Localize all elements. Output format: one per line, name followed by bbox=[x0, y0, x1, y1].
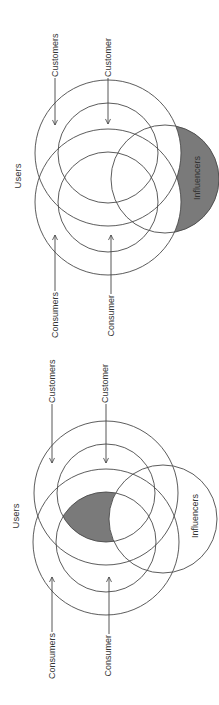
venn-diagram-figure: Users Customers Customer Consumers Consu… bbox=[0, 0, 219, 705]
label-consumers: Consumers bbox=[47, 633, 57, 680]
label-consumer: Consumer bbox=[103, 635, 113, 677]
label-customers: Customers bbox=[47, 359, 57, 403]
diagram-top: Users Customers Customer Consumers Consu… bbox=[12, 33, 219, 338]
label-customer: Customer bbox=[100, 364, 110, 403]
shaded-region-influencers-only bbox=[111, 125, 219, 233]
diagram-title: Users bbox=[10, 503, 21, 528]
diagram-title: Users bbox=[12, 163, 23, 188]
label-customer: Customer bbox=[103, 38, 113, 77]
label-consumers: Consumers bbox=[50, 292, 60, 339]
label-customers: Customers bbox=[50, 33, 60, 77]
label-consumer: Consumer bbox=[106, 295, 116, 337]
diagram-bottom: Users Customers Customer Consumers Consu… bbox=[10, 359, 217, 679]
label-influencers: Influencers bbox=[192, 155, 202, 200]
label-influencers: Influencers bbox=[190, 493, 200, 538]
